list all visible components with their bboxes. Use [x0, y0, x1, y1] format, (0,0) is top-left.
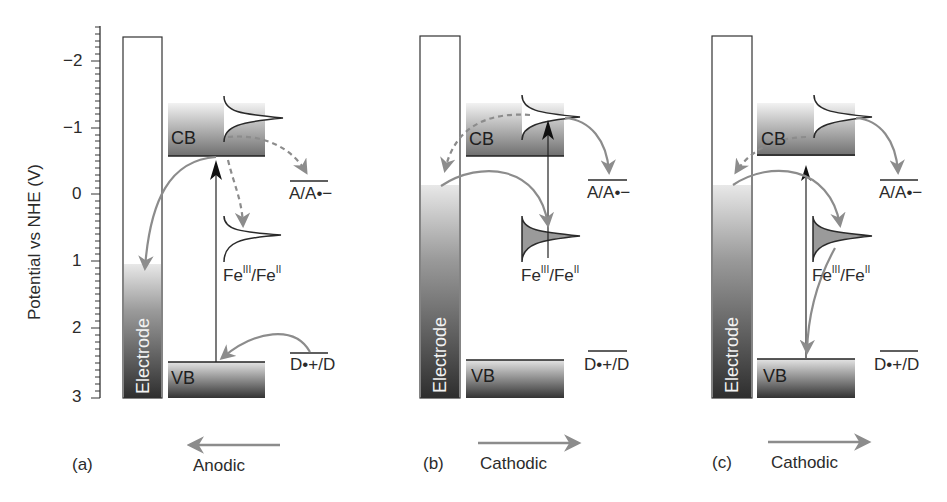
- donor-label-b: D•+/D: [584, 355, 629, 375]
- panel-b: [420, 36, 627, 443]
- acceptor-label-c: A/A•−: [879, 183, 922, 203]
- cb-label-c: CB: [761, 129, 786, 150]
- direction-label-b: Cathodic: [480, 454, 547, 474]
- vb-label-b: VB: [471, 366, 495, 387]
- acceptor-label-b: A/A•−: [587, 183, 630, 203]
- y-tick-label: 0: [72, 184, 81, 204]
- y-tick-label: −2: [63, 51, 82, 71]
- acceptor-label-a: A/A•−: [289, 184, 332, 204]
- dos-curve-c-fe: [813, 216, 872, 262]
- electrode-label-c: Electrode: [722, 317, 743, 393]
- panel-label-c: (c): [712, 453, 732, 473]
- direction-label-a: Anodic: [193, 456, 245, 476]
- electrode-label-b: Electrode: [430, 317, 451, 393]
- panel-label-a: (a): [72, 455, 93, 475]
- y-axis-title: Potential vs NHE (V): [25, 164, 45, 320]
- donor-label-c: D•+/D: [874, 355, 919, 375]
- electrode-label-a: Electrode: [133, 318, 154, 394]
- direction-label-c: Cathodic: [771, 453, 838, 473]
- panel-label-b: (b): [423, 454, 444, 474]
- y-tick-label: −1: [63, 118, 82, 138]
- cb-label-b: CB: [469, 129, 494, 150]
- fe-redox-label-c: FeIII/FeII: [812, 265, 870, 286]
- fe-redox-label-a: FeIII/FeII: [223, 265, 281, 286]
- vb-label-a: VB: [171, 368, 195, 389]
- y-tick-label: 2: [72, 318, 81, 338]
- y-tick-label: 3: [72, 387, 81, 407]
- y-tick-label: 1: [72, 251, 81, 271]
- band-diagram-figure: [0, 0, 947, 502]
- cb-label-a: CB: [171, 128, 196, 149]
- dos-curve-b-fe: [522, 216, 580, 262]
- donor-label-a: D•+/D: [290, 355, 335, 375]
- dos-curve-a-fe: [224, 216, 281, 262]
- fe-redox-label-b: FeIII/FeII: [521, 265, 579, 286]
- y-axis: [91, 26, 100, 398]
- vb-label-c: VB: [763, 366, 787, 387]
